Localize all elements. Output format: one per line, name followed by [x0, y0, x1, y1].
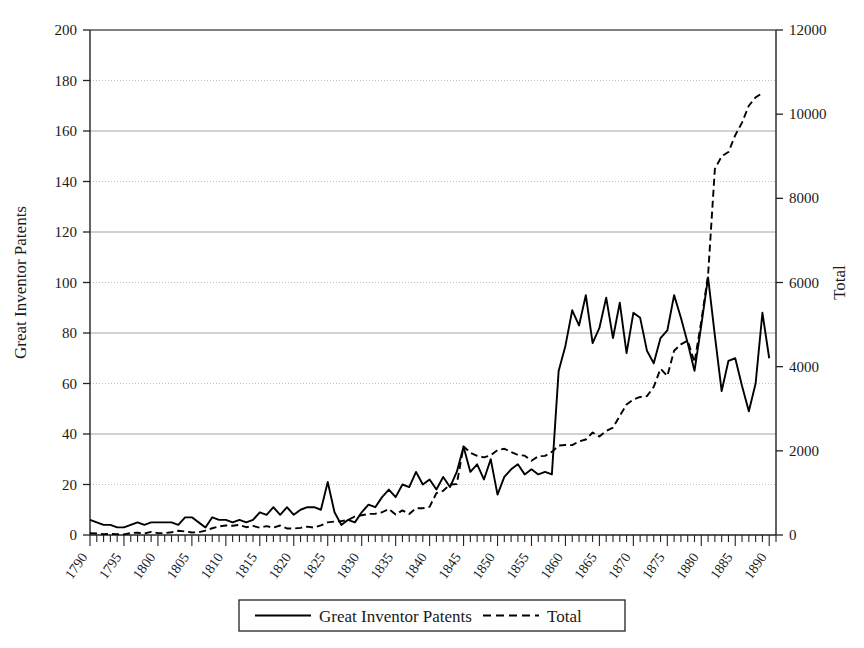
y-axis-right-tick-label: 6000: [789, 275, 819, 291]
x-axis-tick-label: 1810: [198, 550, 226, 582]
x-axis-tick-label: 1795: [96, 550, 124, 582]
x-axis-tick-label: 1800: [130, 550, 158, 582]
gridlines-group: [90, 30, 776, 485]
x-axis-tick-label: 1830: [334, 550, 362, 582]
x-axis-tick-label: 1870: [605, 550, 633, 582]
data-series-group: [90, 93, 769, 534]
chart-container: 020406080100120140160180200 020004000600…: [0, 0, 864, 648]
x-axis-tick-label: 1805: [164, 550, 192, 582]
x-axis-tick-label: 1855: [504, 550, 532, 582]
y-axis-left-tick-label: 120: [55, 224, 78, 240]
series-line-total: [90, 93, 762, 534]
y-axis-left-tick-label: 140: [55, 174, 78, 190]
y-axis-left-tick-label: 40: [62, 426, 77, 442]
x-axis-tick-label: 1835: [368, 550, 396, 582]
y-axis-left-tick-label: 80: [62, 325, 77, 341]
y-axis-left-tick-label: 200: [55, 22, 78, 38]
y-axis-left: 020406080100120140160180200: [55, 22, 91, 543]
x-axis-tick-label: 1790: [62, 550, 90, 582]
y-axis-right-tick-label: 0: [789, 527, 797, 543]
y-axis-left-tick-label: 20: [62, 477, 77, 493]
legend-label-great-inventor-patents: Great Inventor Patents: [319, 607, 472, 626]
x-axis-tick-label: 1860: [538, 550, 566, 582]
x-axis-tick-label: 1850: [470, 550, 498, 582]
legend-label-total: Total: [547, 607, 582, 626]
y-axis-left-tick-label: 60: [62, 376, 77, 392]
x-axis-tick-label: 1840: [402, 550, 430, 582]
y-axis-right-tick-label: 2000: [789, 443, 819, 459]
y-axis-right-title: Total: [830, 265, 849, 300]
y-axis-left-tick-label: 160: [55, 123, 78, 139]
series-line-great-inventor-patents: [90, 277, 769, 527]
y-axis-right-tick-label: 4000: [789, 359, 819, 375]
y-axis-right-tick-label: 12000: [789, 22, 827, 38]
x-axis-tick-label: 1845: [436, 550, 464, 582]
x-axis-tick-label: 1820: [266, 550, 294, 582]
x-axis-tick-label: 1875: [639, 550, 667, 582]
x-axis-tick-label: 1890: [741, 550, 769, 582]
y-axis-right: 020004000600080001000012000: [776, 22, 827, 543]
chart-legend: Great Inventor PatentsTotal: [239, 600, 625, 631]
x-axis-tick-label: 1815: [232, 550, 260, 582]
y-axis-right-tick-label: 10000: [789, 106, 827, 122]
x-axis-tick-label: 1865: [572, 550, 600, 582]
patents-line-chart: 020406080100120140160180200 020004000600…: [0, 0, 864, 648]
y-axis-left-tick-label: 180: [55, 73, 78, 89]
y-axis-left-title: Great Inventor Patents: [11, 206, 30, 359]
y-axis-right-tick-label: 8000: [789, 190, 819, 206]
x-axis: 1790179518001805181018151820182518301835…: [62, 535, 776, 582]
x-axis-tick-label: 1880: [673, 550, 701, 582]
y-axis-left-tick-label: 100: [55, 275, 78, 291]
x-axis-tick-label: 1825: [300, 550, 328, 582]
y-axis-left-tick-label: 0: [70, 527, 78, 543]
x-axis-tick-label: 1885: [707, 550, 735, 582]
